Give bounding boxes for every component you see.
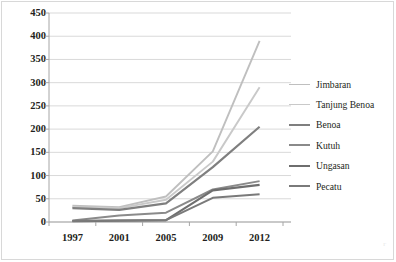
series-line: [72, 181, 259, 220]
legend-swatch-line-icon: [289, 84, 310, 85]
gridlines: [49, 13, 291, 222]
legend-swatch-line-icon: [289, 185, 310, 187]
legend-label: Benoa: [316, 119, 341, 130]
legend-label: Tanjung Benoa: [316, 99, 374, 110]
legend-swatch-line-icon: [289, 165, 310, 167]
data-series-lines: [72, 41, 259, 221]
legend-item[interactable]: Jimbaran: [289, 74, 393, 94]
legend-item[interactable]: Ungasan: [289, 156, 393, 176]
series-line: [72, 127, 259, 210]
legend-swatch-line-icon: [289, 104, 310, 105]
legend-item[interactable]: Tanjung Benoa: [289, 94, 393, 114]
legend-label: Kutuh: [316, 140, 340, 151]
legend-swatch-line-icon: [289, 124, 310, 126]
series-line: [72, 41, 259, 207]
chart-figure: 450400350300250200150100500 199720012005…: [0, 0, 396, 262]
legend-item[interactable]: Benoa: [289, 115, 393, 135]
axis-lines: [49, 13, 291, 222]
legend-item[interactable]: Kutuh: [289, 135, 393, 155]
legend-item[interactable]: Pecatu: [289, 176, 393, 196]
chart-legend: JimbaranTanjung BenoaBenoaKutuhUngasanPe…: [289, 74, 393, 196]
legend-label: Pecatu: [316, 181, 342, 192]
watermark-text: г: [383, 240, 386, 248]
legend-swatch-line-icon: [289, 144, 310, 146]
legend-label: Ungasan: [316, 160, 350, 171]
legend-label: Jimbaran: [316, 79, 351, 90]
axis-tickmarks: [45, 13, 283, 226]
